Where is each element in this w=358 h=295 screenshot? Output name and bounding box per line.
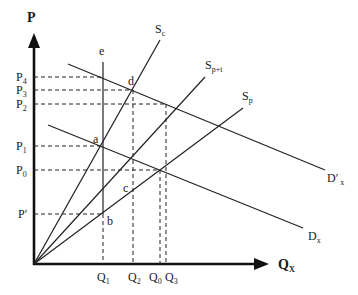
label-dx: Dx xyxy=(308,229,321,245)
curve-sc xyxy=(34,40,160,264)
axes: P QX xyxy=(27,10,295,274)
label-e: e xyxy=(99,44,104,58)
label-sp-plus-t: Sp+t xyxy=(205,58,223,74)
y-axis-arrow-icon xyxy=(28,33,40,48)
point-c: c xyxy=(123,181,128,195)
curve-dx xyxy=(48,125,303,228)
guide-lines xyxy=(34,77,166,264)
price-label-p-prime: P′ xyxy=(18,207,28,221)
price-label-p2: P2 xyxy=(16,97,27,113)
quantity-label-q0: Q0 xyxy=(149,270,162,286)
label-sp: Sp xyxy=(242,89,253,105)
quantity-labels: Q1 Q2 Q0 Q3 xyxy=(97,270,178,286)
label-dx-prime: D′x xyxy=(327,171,344,187)
quantity-label-q2: Q2 xyxy=(128,270,141,286)
x-axis-label: QX xyxy=(278,257,295,274)
price-labels: P4 P3 P2 P1 P0 P′ xyxy=(16,70,28,221)
curve-sp-plus-t xyxy=(34,77,205,264)
x-axis-arrow-icon xyxy=(254,258,269,270)
curve-labels: e Sc Sp+t Sp D′x Dx xyxy=(99,22,344,245)
y-axis-label: P xyxy=(27,10,36,25)
quantity-label-q1: Q1 xyxy=(97,270,110,286)
price-label-p0: P0 xyxy=(16,163,27,179)
price-label-p1: P1 xyxy=(16,139,27,155)
curve-dx-prime xyxy=(68,64,325,170)
quantity-label-q3: Q3 xyxy=(165,270,178,286)
point-a: a xyxy=(93,132,99,146)
point-d: d xyxy=(128,74,134,88)
point-b: b xyxy=(107,214,113,228)
label-sc: Sc xyxy=(155,22,166,38)
supply-demand-diagram: P QX e Sc Sp+t Sp D′x Dx a b c d xyxy=(0,0,358,295)
curves xyxy=(34,40,325,264)
